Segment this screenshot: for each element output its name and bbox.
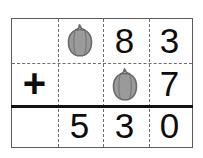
cell-value: 0	[160, 108, 179, 143]
bell-pepper-icon	[109, 67, 141, 103]
cell-addend1-col4[interactable]: 3	[147, 19, 192, 63]
table-row: 8 3	[12, 19, 192, 63]
cell-addend1-col1[interactable]	[12, 19, 57, 63]
cell-sum-col4[interactable]: 0	[147, 106, 192, 147]
bell-pepper-icon	[64, 23, 96, 59]
table-row: + 7	[12, 63, 192, 106]
sum-rule	[11, 105, 193, 108]
plus-sign: +	[23, 63, 46, 103]
cell-sum-col2[interactable]: 5	[57, 106, 102, 147]
cell-addend2-col4[interactable]: 7	[147, 63, 192, 106]
cell-value: 5	[70, 108, 89, 143]
row-divider	[12, 63, 192, 64]
cell-value: 7	[160, 66, 179, 101]
cell-sum-col3[interactable]: 3	[102, 106, 147, 147]
column-divider	[58, 19, 59, 147]
cell-addend2-col2[interactable]	[57, 63, 102, 106]
cell-addend1-col2[interactable]	[57, 19, 102, 63]
addition-worksheet-grid: 8 3 + 7	[11, 18, 193, 148]
cell-value: 3	[115, 108, 134, 143]
cell-value: 8	[115, 23, 134, 58]
column-divider	[103, 19, 104, 147]
cell-value: 3	[160, 23, 179, 58]
table-row: 5 3 0	[12, 106, 192, 147]
cell-addend2-col3[interactable]	[102, 63, 147, 106]
cell-addend1-col3[interactable]: 8	[102, 19, 147, 63]
cell-operator[interactable]: +	[12, 63, 57, 106]
cell-sum-col1[interactable]	[12, 106, 57, 147]
column-divider	[149, 19, 150, 147]
